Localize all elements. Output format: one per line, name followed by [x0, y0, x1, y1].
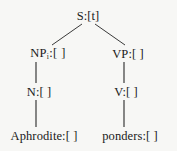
tree-node-vp: VP:[ ] — [112, 48, 144, 61]
tree-node-n: N:[ ] — [27, 86, 51, 99]
tree-node-v: V:[ ] — [114, 86, 138, 99]
tree-terminal-ponders: ponders:[ ] — [102, 130, 158, 143]
edge-s-to-np — [52, 24, 82, 45]
edge-s-to-vp — [95, 24, 125, 45]
tree-terminal-aphrodite: Aphrodite:[ ] — [11, 130, 78, 143]
tree-node-s: S:[t] — [77, 10, 100, 23]
tree-node-np-features: :[ ] — [49, 46, 66, 60]
tree-node-np-label: NP — [30, 46, 46, 60]
tree-node-np: NPi:[ ] — [30, 47, 66, 61]
syntax-tree-diagram: S:[t] NPi:[ ] VP:[ ] N:[ ] V:[ ] Aphrodi… — [0, 0, 177, 151]
